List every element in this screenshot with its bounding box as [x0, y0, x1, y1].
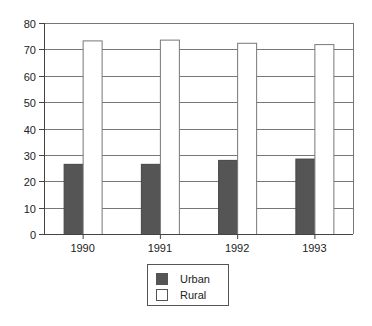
- y-tick-label: 0: [30, 229, 36, 241]
- x-tick-label: 1993: [302, 242, 326, 254]
- y-tick-labels: 01020304050607080: [24, 18, 36, 241]
- legend-swatch-urban: [156, 273, 168, 285]
- x-tick-label: 1992: [225, 242, 249, 254]
- legend-swatch-rural: [156, 289, 168, 301]
- legend-item-rural: Rural: [156, 288, 206, 302]
- bar-rural-1993: [315, 45, 334, 235]
- legend: Urban Rural: [147, 264, 229, 306]
- x-tick-label: 1991: [148, 242, 172, 254]
- legend-label-urban: Urban: [180, 273, 210, 285]
- bars: [64, 40, 334, 234]
- y-tick-label: 50: [24, 97, 36, 109]
- bar-urban-1992: [219, 160, 238, 234]
- y-tick-label: 70: [24, 44, 36, 56]
- bar-urban-1993: [296, 159, 315, 234]
- bar-rural-1991: [160, 40, 179, 234]
- y-tick-label: 40: [24, 124, 36, 136]
- legend-label-rural: Rural: [180, 289, 206, 301]
- bar-urban-1990: [64, 164, 83, 234]
- y-tick-label: 80: [24, 18, 36, 30]
- legend-item-urban: Urban: [156, 272, 210, 286]
- y-tick-label: 30: [24, 150, 36, 162]
- y-tick-label: 60: [24, 71, 36, 83]
- x-tick-label: 1990: [70, 242, 94, 254]
- bar-urban-1991: [141, 164, 160, 234]
- y-tick-label: 20: [24, 176, 36, 188]
- bar-rural-1990: [83, 41, 102, 235]
- x-tick-labels: 1990199119921993: [70, 242, 326, 254]
- y-tick-label: 10: [24, 203, 36, 215]
- bar-rural-1992: [238, 43, 257, 234]
